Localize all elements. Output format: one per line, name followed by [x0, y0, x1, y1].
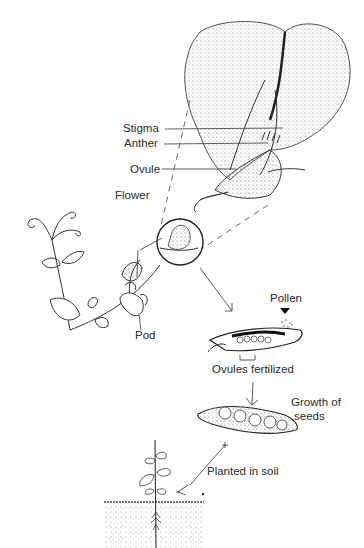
pea-plant-illustration — [28, 212, 160, 330]
label-anther: Anther — [124, 138, 158, 150]
enlarged-flower-illustration — [185, 22, 350, 213]
diagram-artwork — [0, 0, 364, 548]
pod-ovules-illustration — [208, 328, 302, 360]
label-growth-of-seeds-1: Growth of — [291, 397, 341, 409]
label-flower: Flower — [115, 190, 150, 202]
ovules-bracket — [240, 355, 255, 360]
label-ovule: Ovule — [130, 164, 160, 176]
label-ovules-fertilized: Ovules fertilized — [212, 364, 294, 376]
pollen-grains — [281, 319, 293, 328]
arrow-to-growth — [252, 382, 253, 405]
arrow-to-pollination — [200, 268, 232, 311]
seedling-illustration — [104, 440, 204, 548]
pollen-arrow-icon — [280, 308, 290, 314]
zoom-line-left — [160, 100, 190, 230]
label-planted-in-soil: Planted in soil — [207, 466, 279, 478]
zoom-line-right — [200, 205, 268, 250]
pod-leader — [139, 315, 141, 330]
label-growth-of-seeds-2: seeds — [294, 411, 325, 423]
label-pod: Pod — [135, 330, 155, 342]
growing-pod-illustration — [198, 407, 298, 434]
label-stigma: Stigma — [123, 123, 159, 135]
label-pollen: Pollen — [270, 293, 302, 305]
